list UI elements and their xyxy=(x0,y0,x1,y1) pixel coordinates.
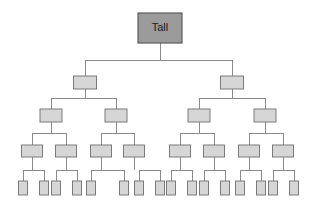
tree-node-l3-1[interactable] xyxy=(40,109,62,122)
tree-diagram: Tall xyxy=(0,0,315,214)
tree-node-l5-16[interactable] xyxy=(290,181,299,195)
tree-node-l5-6[interactable] xyxy=(120,181,129,195)
tree-node-l2-1[interactable] xyxy=(74,76,97,89)
tree-node-l5-7[interactable] xyxy=(135,181,144,195)
tree-node-l5-1[interactable] xyxy=(19,181,28,195)
tree-node-l5-8[interactable] xyxy=(156,181,165,195)
root-node-label: Tall xyxy=(152,21,169,33)
tree-node-l5-2[interactable] xyxy=(40,181,49,195)
tree-node-l5-9[interactable] xyxy=(167,181,176,195)
tree-node-l5-12[interactable] xyxy=(221,181,230,195)
tree-canvas: Tall xyxy=(0,0,315,214)
tree-node-l3-3[interactable] xyxy=(188,109,210,122)
tree-node-l5-3[interactable] xyxy=(52,181,61,195)
tree-node-l4-7[interactable] xyxy=(239,145,260,157)
connector-lines xyxy=(23,43,294,181)
tree-node-l4-5[interactable] xyxy=(170,145,191,157)
tree-node-l4-6[interactable] xyxy=(204,145,225,157)
tree-node-l5-11[interactable] xyxy=(200,181,209,195)
tree-node-l4-2[interactable] xyxy=(56,145,77,157)
tree-node-l5-4[interactable] xyxy=(73,181,82,195)
tree-node-l5-15[interactable] xyxy=(269,181,278,195)
tree-node-l5-14[interactable] xyxy=(257,181,266,195)
tree-node-l4-8[interactable] xyxy=(273,145,294,157)
tree-node-l5-10[interactable] xyxy=(188,181,197,195)
tree-node-l4-1[interactable] xyxy=(22,145,43,157)
tree-node-l3-4[interactable] xyxy=(254,109,276,122)
tree-node-l5-13[interactable] xyxy=(236,181,245,195)
tree-node-l4-3[interactable] xyxy=(91,145,112,157)
tree-node-l2-2[interactable] xyxy=(221,76,244,89)
tree-node-l5-5[interactable] xyxy=(87,181,96,195)
tree-node-l3-2[interactable] xyxy=(105,109,127,122)
tree-nodes xyxy=(19,13,299,195)
tree-node-l4-4[interactable] xyxy=(124,145,145,157)
